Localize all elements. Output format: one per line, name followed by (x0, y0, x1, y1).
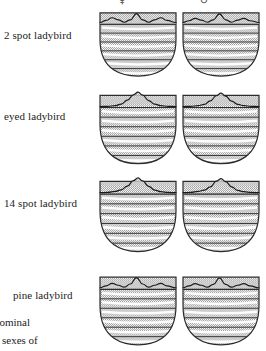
panel-fourteen-spot-female (96, 176, 180, 258)
panel-two-spot-male (179, 8, 263, 82)
panel-pine-male (179, 272, 263, 351)
shield-plot-svg (96, 90, 180, 170)
panel-two-spot-female (96, 8, 180, 82)
caption-fragment-line-2: sexes of (2, 334, 38, 347)
row-label-two-spot: 2 spot ladybird (4, 29, 100, 42)
panel-pine-female (96, 272, 180, 351)
figure-container: ♀ ♂ 2 spot ladybird eyed ladybird 14 spo… (0, 0, 266, 351)
shield-plot-svg (179, 176, 263, 258)
shield-plot-svg (96, 272, 180, 351)
shield-plot-svg (179, 272, 263, 351)
shield-plot-svg (179, 8, 263, 82)
panel-fourteen-spot-male (179, 176, 263, 258)
panel-eyed-male (179, 90, 263, 170)
row-label-eyed: eyed ladybird (4, 110, 100, 123)
shield-plot-svg (96, 8, 180, 82)
male-symbol-header: ♂ (193, 0, 217, 6)
shield-plot-svg (179, 90, 263, 170)
row-label-pine: pine ladybird (13, 289, 109, 302)
row-label-fourteen-spot: 14 spot ladybird (4, 197, 100, 210)
panel-eyed-female (96, 90, 180, 170)
shield-plot-svg (96, 176, 180, 258)
female-symbol-header: ♀ (110, 0, 134, 6)
caption-fragment-line-1: dominal (0, 316, 30, 329)
